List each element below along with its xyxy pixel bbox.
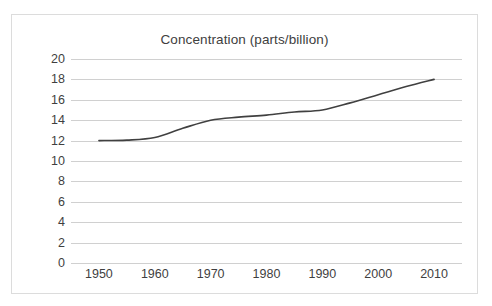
x-axis-label-1960: 1960 xyxy=(141,267,169,282)
cropped-header-text xyxy=(74,6,234,18)
y-axis-label-20: 20 xyxy=(12,53,65,66)
y-axis-label-12: 12 xyxy=(12,134,65,147)
y-axis-tick-labels: 02468101214161820 xyxy=(12,59,65,263)
x-axis-label-1970: 1970 xyxy=(197,267,225,282)
x-axis-label-1990: 1990 xyxy=(308,267,336,282)
y-axis-label-0: 0 xyxy=(12,257,65,270)
y-axis-label-4: 4 xyxy=(12,216,65,229)
y-axis-label-14: 14 xyxy=(12,114,65,127)
x-axis-label-1950: 1950 xyxy=(85,267,113,282)
plot-area xyxy=(71,59,462,263)
y-axis-label-2: 2 xyxy=(12,236,65,249)
y-axis-label-6: 6 xyxy=(12,196,65,209)
gridline-y-0 xyxy=(71,263,462,264)
y-axis-label-10: 10 xyxy=(12,155,65,168)
chart-title: Concentration (parts/billion) xyxy=(12,32,477,47)
y-axis-label-16: 16 xyxy=(12,94,65,107)
x-axis-label-2000: 2000 xyxy=(364,267,392,282)
x-axis-label-1980: 1980 xyxy=(253,267,281,282)
chart-frame: Concentration (parts/billion) 0246810121… xyxy=(11,14,478,294)
x-axis-label-2010: 2010 xyxy=(420,267,448,282)
y-axis-label-8: 8 xyxy=(12,175,65,188)
y-axis-label-18: 18 xyxy=(12,73,65,86)
x-axis-tick-labels: 1950196019701980199020002010 xyxy=(71,267,462,287)
series-line-concentration xyxy=(71,59,462,263)
